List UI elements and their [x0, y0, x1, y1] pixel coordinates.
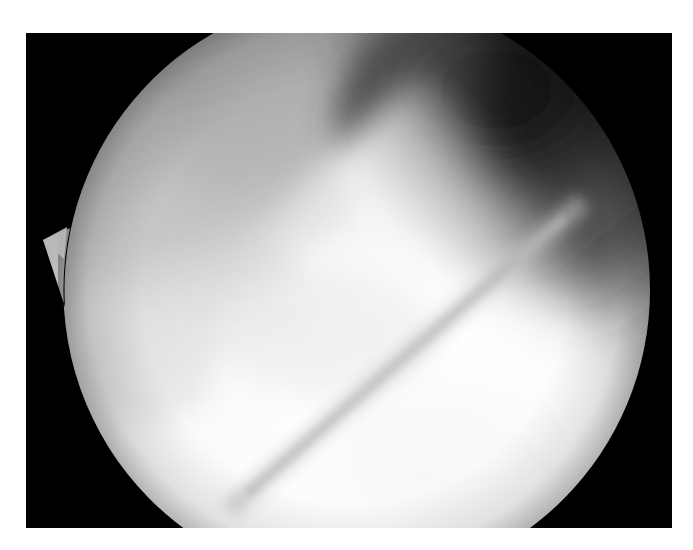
figure-frame: Arthroscopic view of knee joint — [26, 33, 672, 528]
page-root: Arthroscopic view of knee joint — [0, 0, 693, 550]
arthroscopy-image — [26, 33, 672, 528]
